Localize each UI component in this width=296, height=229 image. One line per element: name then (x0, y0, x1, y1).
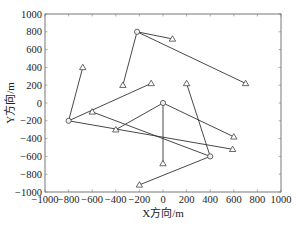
triangle-marker (242, 80, 248, 85)
y-tick-label: 400 (26, 62, 42, 73)
link-line (123, 32, 137, 85)
y-axis-label: Y方向/m (3, 82, 16, 124)
chart: −1000−800−600−400−20002004006008001000−1… (0, 0, 296, 229)
circle-marker (66, 118, 71, 123)
x-tick-label: −800 (58, 194, 80, 205)
link-line (137, 32, 172, 39)
triangle-marker (160, 160, 166, 165)
link-line (69, 67, 83, 120)
circle-marker (160, 100, 165, 105)
y-tick-label: −400 (20, 133, 42, 144)
x-tick-label: 200 (179, 194, 195, 205)
x-tick-label: 600 (226, 194, 242, 205)
y-tick-label: 0 (37, 98, 42, 109)
data-markers (66, 29, 249, 187)
y-tick-label: −600 (20, 151, 42, 162)
triangle-marker (183, 80, 189, 85)
triangle-marker (120, 82, 126, 87)
y-tick-label: 800 (26, 26, 42, 37)
x-tick-label: 1000 (271, 194, 292, 205)
x-tick-label: 400 (202, 194, 218, 205)
y-tick-label: −200 (20, 115, 42, 126)
y-tick-label: −1000 (15, 187, 42, 198)
x-tick-label: 0 (160, 194, 165, 205)
x-tick-label: −400 (105, 194, 127, 205)
y-tick-label: 600 (26, 44, 42, 55)
circle-marker (208, 154, 213, 159)
link-line (69, 121, 233, 149)
link-line (139, 156, 210, 184)
y-tick-label: −800 (20, 169, 42, 180)
x-tick-label: −200 (129, 194, 151, 205)
x-axis-label: X方向/m (142, 206, 184, 219)
axis-ticks: −1000−800−600−400−20002004006008001000−1… (15, 9, 291, 206)
x-tick-label: −600 (81, 194, 103, 205)
triangle-marker (231, 134, 237, 139)
link-line (92, 112, 210, 156)
link-line (137, 32, 246, 84)
connection-lines (69, 32, 246, 185)
triangle-marker (80, 64, 86, 69)
x-tick-label: 800 (250, 194, 266, 205)
circle-marker (134, 29, 139, 34)
link-line (69, 83, 152, 120)
link-line (187, 83, 211, 156)
y-tick-label: 200 (26, 80, 42, 91)
y-tick-label: 1000 (21, 9, 42, 20)
link-line (116, 103, 163, 130)
triangle-marker (148, 80, 154, 85)
